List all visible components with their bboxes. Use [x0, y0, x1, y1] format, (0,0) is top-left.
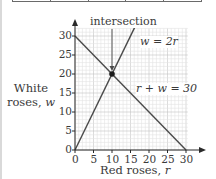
- y-tick-label: 5: [65, 125, 72, 136]
- y-axis-label-text: roses,: [7, 95, 45, 109]
- line-label-r-plus-w-equals-30: r + w = 30: [136, 83, 197, 95]
- line-label-w-equals-2r: w = 2r: [140, 36, 178, 48]
- y-tick-label: 20: [59, 68, 72, 79]
- intersection-label: intersection: [90, 16, 157, 28]
- y-axis-label-line1: White: [4, 81, 58, 95]
- y-axis-label-line2: roses, w: [4, 95, 58, 109]
- y-tick-label: 10: [59, 106, 72, 117]
- intersection-point: [109, 71, 115, 77]
- x-axis-variable: r: [165, 163, 171, 177]
- x-axis-label: Red roses, r: [100, 163, 170, 177]
- x-tick-label: 30: [180, 154, 193, 165]
- x-axis-arrow-icon: [199, 147, 206, 153]
- y-tick-label: 25: [59, 49, 72, 60]
- y-axis-arrow-icon: [72, 19, 78, 26]
- x-tick-label: 5: [90, 154, 97, 165]
- y-axis-variable: w: [45, 95, 55, 109]
- x-axis-label-text: Red roses,: [100, 163, 165, 177]
- y-tick-label: 15: [59, 87, 72, 98]
- y-axis-label: White roses, w: [4, 81, 58, 109]
- y-tick-label: 30: [59, 30, 72, 41]
- y-tick-label: 0: [65, 144, 72, 155]
- x-tick-label: 0: [72, 154, 79, 165]
